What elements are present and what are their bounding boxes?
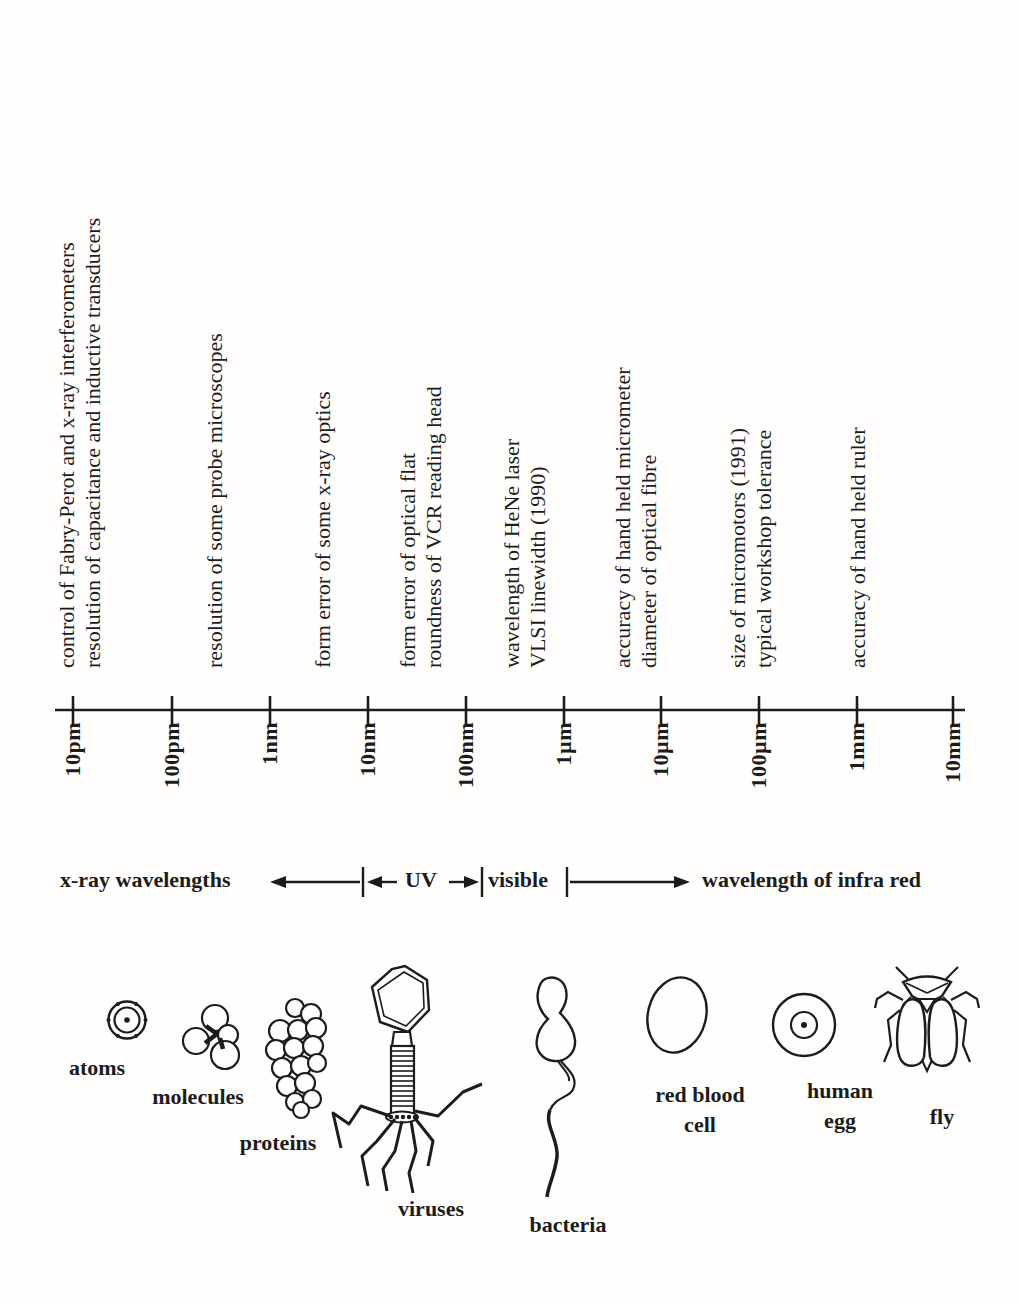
label-molecules: molecules <box>152 1082 244 1112</box>
red-blood-cell-drawing <box>640 971 715 1059</box>
annotation-line: VLSI linewidth (1990) <box>525 439 551 668</box>
label-line: cell <box>655 1110 744 1140</box>
label-viruses: viruses <box>398 1194 464 1224</box>
tick-label-100nm: 100nm <box>454 722 478 788</box>
annotation-line: size of micromotors (1991) <box>725 428 751 668</box>
label-line: egg <box>807 1106 873 1136</box>
annotation-micrometer: accuracy of hand held micrometer diamete… <box>610 367 662 668</box>
label-human-egg: human egg <box>807 1076 873 1136</box>
annotation-micromotors: size of micromotors (1991) typical works… <box>725 428 777 668</box>
tick-label-10nm: 10nm <box>356 722 380 777</box>
label-line: human <box>807 1076 873 1106</box>
annotation-interferometers: control of Fabry-Perot and x-ray interfe… <box>54 218 106 668</box>
label-proteins: proteins <box>240 1128 317 1158</box>
annotation-line: resolution of some probe microscopes <box>202 333 228 668</box>
tick-label-10mm: 10mm <box>941 722 965 783</box>
annotation-line: accuracy of hand held micrometer <box>610 367 636 668</box>
molecules-drawing <box>183 1005 239 1069</box>
virus-drawing <box>333 966 482 1193</box>
label-red-blood-cell: red blood cell <box>655 1080 744 1140</box>
annotation-line: form error of some x-ray optics <box>310 391 336 668</box>
label-atoms: atoms <box>69 1053 125 1083</box>
tick-label-100pm: 100pm <box>160 722 184 788</box>
band-label-xray: x-ray wavelengths <box>60 867 230 893</box>
bacteria-drawing <box>537 978 575 1197</box>
annotation-line: wavelength of HeNe laser <box>499 439 525 668</box>
annotation-hene-laser: wavelength of HeNe laser VLSI linewidth … <box>499 439 551 668</box>
annotation-line: typical workshop tolerance <box>751 428 777 668</box>
atom-drawing <box>107 1002 148 1039</box>
length-scale-diagram: control of Fabry-Perot and x-ray interfe… <box>0 0 1019 1305</box>
annotation-line: resolution of capacitance and inductive … <box>80 218 106 668</box>
tick-label-10um: 10µm <box>649 722 673 777</box>
annotation-line: roundness of VCR reading head <box>421 386 447 668</box>
label-bacteria: bacteria <box>530 1210 607 1240</box>
label-line: red blood <box>655 1080 744 1110</box>
band-label-uv: UV <box>405 867 437 893</box>
annotation-probe-microscopes: resolution of some probe microscopes <box>202 333 228 668</box>
proteins-drawing <box>266 999 326 1118</box>
annotation-line: control of Fabry-Perot and x-ray interfe… <box>54 218 80 668</box>
label-fly: fly <box>930 1102 954 1132</box>
annotation-line: diameter of optical fibre <box>636 367 662 668</box>
annotation-optical-flat: form error of optical flat roundness of … <box>395 386 447 668</box>
human-egg-drawing <box>773 994 835 1056</box>
tick-label-1nm: 1nm <box>258 722 282 765</box>
annotation-ruler: accuracy of hand held ruler <box>845 427 871 668</box>
tick-label-1um: 1µm <box>552 722 576 766</box>
annotation-line: accuracy of hand held ruler <box>845 427 871 668</box>
band-label-visible: visible <box>488 867 548 893</box>
tick-label-1mm: 1mm <box>845 722 869 771</box>
band-label-infrared: wavelength of infra red <box>702 867 921 893</box>
tick-label-100um: 100µm <box>747 722 771 789</box>
annotation-line: form error of optical flat <box>395 386 421 668</box>
fly-drawing <box>875 967 979 1071</box>
annotation-xray-optics: form error of some x-ray optics <box>310 391 336 668</box>
tick-label-10pm: 10pm <box>61 722 85 777</box>
